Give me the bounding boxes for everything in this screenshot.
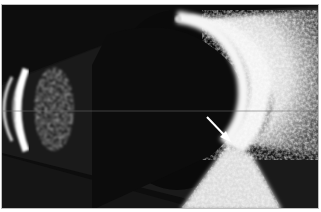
- ultrasound-image: [1, 4, 319, 209]
- b-scan-render: [2, 5, 319, 209]
